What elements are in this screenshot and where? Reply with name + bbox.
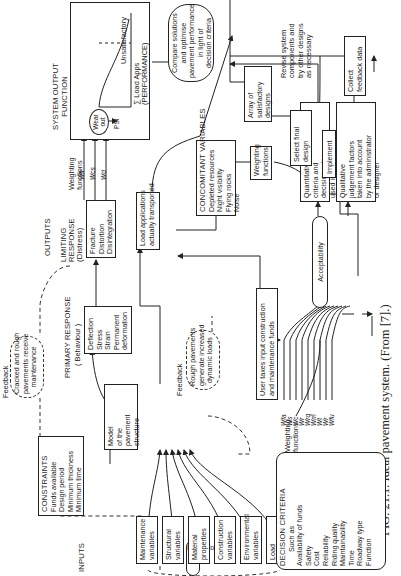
input-construction-variables: Construction variables — [214, 516, 236, 564]
feedback-bottom-label: Feedback — [176, 364, 185, 396]
acceptability-node: Acceptability — [312, 216, 328, 308]
compare-line: decision criteria — [205, 8, 214, 78]
compare-solutions-node: Compare solutions and optimise pavement … — [168, 4, 214, 82]
weight-symbol: Wfr — [78, 170, 85, 180]
feedback-dynamic-loads-node: Rough pavements generate increased dynam… — [186, 330, 220, 390]
outputs-label: OUTPUTS — [44, 218, 53, 256]
acceptability-label: Acceptability — [317, 242, 324, 281]
input-line2: properties — [200, 520, 209, 560]
qualitative-line: or designer — [373, 106, 382, 198]
input-line2: variables — [148, 520, 157, 560]
input-environmental-variables: Environmental variables — [240, 516, 262, 564]
user-taxes-box: User taxes input construction and mainte… — [256, 288, 278, 400]
limiting-response-box: Fracture Distortion Disintegration — [86, 200, 116, 258]
user-taxes-line: and maintenance funds — [268, 292, 277, 396]
limiting-response-title: LIMITING RESPONSE (Distress) — [60, 218, 84, 262]
model-box: Model of the pavement structure — [104, 384, 138, 450]
select-final-design-box: Select final design — [290, 110, 312, 166]
model-line: structure — [133, 388, 142, 446]
array-line: designs — [264, 70, 273, 118]
array-of-designs-box: Array of satisfactory designs — [244, 66, 272, 122]
implement-label: Implement — [325, 140, 334, 174]
load-applications-box: Load applications actually transported — [136, 192, 160, 250]
constraints-box: CONSTRAINTS Funds available Design perio… — [38, 436, 84, 516]
qualitative-judgement-box: Qualitative judgement factors taken into… — [336, 102, 376, 202]
load-apps-line: actually transported — [148, 196, 157, 246]
primary-response-title: PRIMARY RESPONSE — [64, 296, 73, 378]
concomitant-weighting-box: Weighting functions — [250, 146, 272, 180]
criterion-item: Function — [365, 456, 374, 566]
unsatisfactory-label: Unsatisfactory — [120, 17, 129, 64]
input-line2: variables — [174, 520, 183, 560]
feedback-line: maintenance — [30, 340, 39, 394]
revise-line: as necessary — [305, 23, 313, 78]
performance-axis-sub: (PERFORMANCE) — [141, 43, 150, 105]
implement-box: Implement — [322, 130, 336, 178]
weight-symbol: Wcs — [89, 167, 96, 180]
input-material-properties: Material properties — [188, 516, 210, 564]
primary-response-box: Deflection Stress Strain Permanent defor… — [84, 306, 132, 354]
revise-note: Revise system components and try other d… — [280, 23, 314, 78]
select-line: design — [302, 114, 311, 162]
primary-response-subtitle: ( Behaviour ) — [74, 324, 83, 366]
input-maintenance-variables: Maintenance variables — [136, 516, 158, 564]
constraint-item: Minimum time — [75, 440, 84, 512]
input-line2: variables — [226, 520, 235, 560]
feedback-line: dynamic loads — [206, 334, 215, 386]
system-output-title2: FUNCTION — [61, 63, 70, 130]
system-output-title: SYSTEM OUTPUT FUNCTION — [52, 63, 69, 130]
collect-line: feedback data — [356, 40, 365, 92]
collect-feedback-box: Collect feedback data — [344, 36, 366, 96]
input-structural-variables: Structural variables — [162, 516, 184, 564]
distress-item: Disintegration — [106, 204, 115, 254]
system-output-box: Wear out PSI ∑ Load Apps (PERFORMANCE) — [70, 2, 150, 140]
criterion-item: Safety — [305, 456, 314, 566]
input-line2: variables — [252, 520, 261, 560]
concomitant-item: Noise — [233, 144, 242, 212]
inputs-label: INPUTS — [78, 543, 87, 572]
feedback-maintenance-node: Cracked and rough pavements receive main… — [10, 336, 44, 398]
response-item: deformation — [121, 310, 130, 350]
concomitant-variables-box: CONCOMITANT VARIABLES Depleted resources… — [196, 140, 236, 216]
diagram-canvas: FIG. 21.1. Ideal pavement system. (From … — [0, 0, 401, 576]
weighting-line: functions — [262, 150, 271, 176]
weight-symbol: Wd — [100, 170, 107, 180]
limiting-subtitle: (Distress) — [76, 218, 84, 262]
decision-criteria-box: DECISION CRITERIA Such as Availability o… — [276, 452, 386, 570]
weight-symbol: Wfu — [328, 414, 335, 426]
